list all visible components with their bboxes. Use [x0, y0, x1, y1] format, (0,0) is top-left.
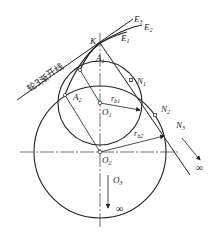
- label-o1: O1: [102, 107, 112, 118]
- n3-direction-arrow: [182, 138, 200, 160]
- label-a1: A1: [95, 53, 105, 64]
- point-a1: [78, 68, 81, 71]
- label-rb1: rb1: [111, 93, 120, 104]
- point-o1: [98, 101, 102, 105]
- point-n1: [130, 79, 133, 82]
- label-e2: E2: [143, 22, 153, 33]
- tangent-line: [100, 43, 190, 175]
- label-gear3-involute: 轮3渐开线: [25, 61, 65, 94]
- point-n2: [154, 114, 157, 117]
- label-infinity-bottom: ∞: [116, 203, 123, 214]
- label-rb2: rb2: [134, 128, 143, 139]
- label-a2: A2: [72, 92, 82, 103]
- label-n3: N3: [175, 120, 185, 131]
- involute-diagram: E3 E2 E1 K A1 A2 O1 O2 O3 N1 N2 N3 rb1 r…: [0, 0, 220, 235]
- point-a2: [63, 93, 66, 96]
- label-e3: E3: [133, 14, 143, 25]
- label-o3: O3: [113, 175, 123, 186]
- point-o2: [98, 150, 102, 154]
- label-o2: O2: [102, 155, 112, 166]
- label-n1: N1: [136, 76, 146, 87]
- o2-to-a2-line: [65, 95, 100, 152]
- label-infinity-right: ∞: [196, 162, 203, 173]
- label-k: K: [89, 36, 97, 46]
- label-e1: E1: [120, 33, 130, 44]
- label-n2: N2: [160, 104, 170, 115]
